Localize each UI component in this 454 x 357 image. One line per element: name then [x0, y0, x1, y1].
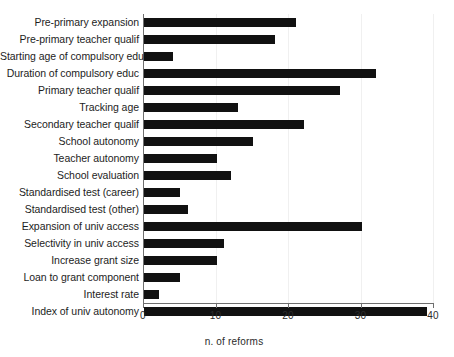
tick-label-20: 20 — [282, 310, 294, 321]
category-label: Increase grant size — [0, 252, 139, 269]
category-label: Teacher autonomy — [0, 150, 139, 167]
bar — [144, 256, 217, 265]
bar — [144, 222, 362, 231]
bar — [144, 137, 253, 146]
bar-row: Index of univ autonomy — [0, 303, 454, 320]
bar — [144, 239, 224, 248]
category-label: Primary teacher qualif — [0, 82, 139, 99]
bar-row: Tracking age — [0, 99, 454, 116]
bar — [144, 52, 173, 61]
bar-row: Secondary teacher qualif — [0, 116, 454, 133]
bar-row: Interest rate — [0, 286, 454, 303]
category-label: Standardised test (other) — [0, 201, 139, 218]
bar — [144, 171, 231, 180]
bar-row: Pre-primary teacher qualif — [0, 31, 454, 48]
bar-row: Standardised test (career) — [0, 184, 454, 201]
tick-label-10: 10 — [210, 310, 222, 321]
bar-row: Loan to grant component — [0, 269, 454, 286]
bar-row: Pre-primary expansion — [0, 14, 454, 31]
tick-mark-20 — [288, 303, 289, 308]
category-label: Standardised test (career) — [0, 184, 139, 201]
bar — [144, 18, 296, 27]
tick-mark-10 — [216, 303, 217, 308]
bar-row: School evaluation — [0, 167, 454, 184]
bar — [144, 188, 180, 197]
bar-row: Selectivity in univ access — [0, 235, 454, 252]
category-label: Pre-primary teacher qualif — [0, 31, 139, 48]
tick-mark-40 — [433, 303, 434, 308]
category-label: School autonomy — [0, 133, 139, 150]
category-label: Index of univ autonomy — [0, 303, 139, 320]
x-axis-title: n. of reforms — [0, 336, 454, 347]
category-label: Duration of compulsory educ — [0, 65, 139, 82]
category-label: Selectivity in univ access — [0, 235, 139, 252]
bar — [144, 86, 340, 95]
tick-label-30: 30 — [355, 310, 367, 321]
bar-row: School autonomy — [0, 133, 454, 150]
bar-row: Duration of compulsory educ — [0, 65, 454, 82]
category-label: School evaluation — [0, 167, 139, 184]
bar-chart: Pre-primary expansionPre-primary teacher… — [0, 0, 454, 357]
bar — [144, 35, 275, 44]
category-label: Loan to grant component — [0, 269, 139, 286]
tick-mark-0 — [143, 303, 144, 308]
category-label: Secondary teacher qualif — [0, 116, 139, 133]
bar — [144, 205, 188, 214]
bar — [144, 273, 180, 282]
category-label: Expansion of univ access — [0, 218, 139, 235]
category-label: Tracking age — [0, 99, 139, 116]
bar — [144, 69, 376, 78]
tick-label-0: 0 — [140, 310, 146, 321]
bar-row: Starting age of compulsory educ — [0, 48, 454, 65]
bar-row: Teacher autonomy — [0, 150, 454, 167]
bar-row: Increase grant size — [0, 252, 454, 269]
bar-row: Expansion of univ access — [0, 218, 454, 235]
bar — [144, 154, 217, 163]
category-label: Pre-primary expansion — [0, 14, 139, 31]
x-axis-title-text: n. of reforms — [205, 336, 264, 347]
category-label: Interest rate — [0, 286, 139, 303]
tick-mark-30 — [361, 303, 362, 308]
bar — [144, 290, 159, 299]
tick-label-40: 40 — [427, 310, 439, 321]
category-label: Starting age of compulsory educ — [0, 48, 139, 65]
bar-row: Standardised test (other) — [0, 201, 454, 218]
bar — [144, 120, 304, 129]
bar — [144, 103, 238, 112]
bar-row: Primary teacher qualif — [0, 82, 454, 99]
